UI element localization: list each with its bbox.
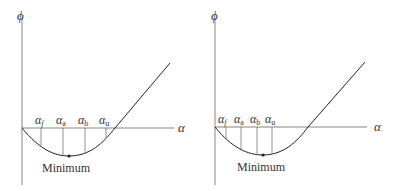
svg-text:αu: αu xyxy=(265,112,275,127)
phi-curve xyxy=(22,63,170,156)
minimum-point xyxy=(67,154,70,157)
y-axis-label: ϕ xyxy=(211,8,218,23)
panel-right: ϕ α Minimum αf αa αb αu xyxy=(211,8,382,185)
svg-text:αb: αb xyxy=(250,112,260,127)
svg-text:αa: αa xyxy=(234,112,244,127)
svg-text:αb: αb xyxy=(78,113,88,128)
panel-left: ϕ α Minimum αf αa αb αu xyxy=(17,8,186,185)
phi-curve xyxy=(215,62,365,155)
y-axis-label: ϕ xyxy=(17,8,24,23)
svg-text:αu: αu xyxy=(99,113,109,128)
svg-text:αf: αf xyxy=(35,113,45,128)
marker-labels: αf αa αb αu xyxy=(35,113,109,128)
line-search-diagrams: ϕ α Minimum αf αa αb αu ϕ α Minimum αf α… xyxy=(0,0,400,191)
marker-labels: αf αa αb αu xyxy=(218,112,275,127)
svg-text:αa: αa xyxy=(56,113,66,128)
minimum-label: Minimum xyxy=(42,161,91,175)
x-axis-label: α xyxy=(374,119,382,134)
minimum-label: Minimum xyxy=(237,160,286,174)
svg-text:αf: αf xyxy=(218,112,228,127)
minimum-point xyxy=(261,153,264,156)
x-axis-label: α xyxy=(178,120,186,135)
